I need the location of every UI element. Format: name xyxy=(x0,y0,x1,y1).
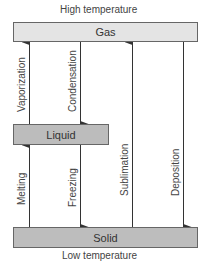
liquid-label: Liquid xyxy=(46,129,75,141)
gas-label: Gas xyxy=(95,26,115,38)
vaporization-label: Vaporization xyxy=(16,57,27,112)
sublimation-label: Sublimation xyxy=(119,144,130,196)
solid-label: Solid xyxy=(93,232,117,244)
low-temperature-label: Low temperature xyxy=(62,250,137,261)
solid-box: Solid xyxy=(13,227,198,248)
condensation-label: Condensation xyxy=(67,50,78,112)
deposition-label: Deposition xyxy=(170,149,181,196)
liquid-box: Liquid xyxy=(13,124,109,145)
freezing-label: Freezing xyxy=(67,168,78,207)
gas-box: Gas xyxy=(13,22,198,42)
melting-label: Melting xyxy=(16,173,27,205)
